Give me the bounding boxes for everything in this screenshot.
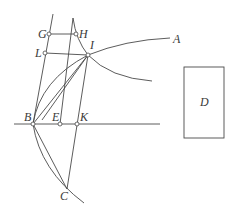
label-K: K <box>79 110 89 124</box>
label-H: H <box>78 27 89 41</box>
point-K <box>75 122 79 126</box>
label-E: E <box>51 110 60 124</box>
label-D: D <box>199 95 209 109</box>
point-B <box>31 122 35 126</box>
point-G <box>47 32 51 36</box>
label-I: I <box>89 38 95 52</box>
point-L <box>43 51 47 55</box>
label-A: A <box>172 32 181 46</box>
segment-LI <box>45 53 88 55</box>
label-B: B <box>24 110 32 124</box>
geometric-figure: G H L I A B E K C D <box>0 0 240 217</box>
point-I <box>86 53 90 57</box>
label-L: L <box>34 46 42 60</box>
label-G: G <box>38 27 47 41</box>
segment-BC <box>33 124 67 189</box>
label-C: C <box>60 189 69 203</box>
diagram-canvas: G H L I A B E K C D <box>0 0 240 217</box>
point-H <box>74 32 78 36</box>
